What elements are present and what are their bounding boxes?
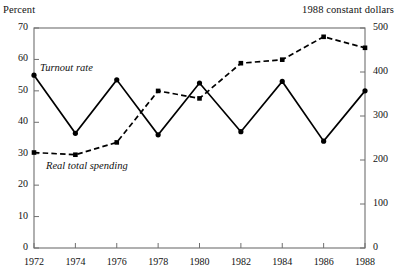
- y-tick-0: 0: [6, 241, 28, 252]
- plot-frame: [34, 28, 365, 248]
- y2-tick-300: 300: [373, 109, 397, 120]
- axis-ticks: [34, 28, 365, 248]
- y-tick-50: 50: [6, 84, 28, 95]
- x-tick-1988: 1988: [348, 256, 382, 267]
- x-tick-1978: 1978: [141, 256, 175, 267]
- y-tick-40: 40: [6, 115, 28, 126]
- plot-area: [0, 0, 399, 278]
- x-tick-1982: 1982: [224, 256, 258, 267]
- y2-tick-100: 100: [373, 197, 397, 208]
- x-tick-1980: 1980: [183, 256, 217, 267]
- x-tick-1974: 1974: [58, 256, 92, 267]
- y-tick-30: 30: [6, 147, 28, 158]
- y2-tick-400: 400: [373, 65, 397, 76]
- y-tick-70: 70: [6, 21, 28, 32]
- y2-tick-500: 500: [373, 21, 397, 32]
- x-tick-1972: 1972: [17, 256, 51, 267]
- y-tick-60: 60: [6, 52, 28, 63]
- y-tick-10: 10: [6, 210, 28, 221]
- data-series: [31, 35, 367, 158]
- y2-tick-200: 200: [373, 153, 397, 164]
- election-turnout-spending-chart: Percent 1988 constant dollars Turnout ra…: [0, 0, 399, 278]
- y-tick-20: 20: [6, 178, 28, 189]
- y2-tick-0: 0: [373, 241, 397, 252]
- x-tick-1986: 1986: [307, 256, 341, 267]
- x-tick-1976: 1976: [100, 256, 134, 267]
- x-tick-1984: 1984: [265, 256, 299, 267]
